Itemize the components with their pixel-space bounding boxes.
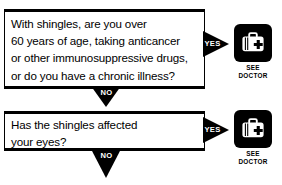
medical-bag-icon	[234, 110, 272, 148]
yes-arrow-1[interactable]: YES	[203, 31, 229, 58]
no-arrow-2-label: NO	[91, 152, 122, 160]
yes-arrow-2[interactable]: YES	[203, 117, 229, 144]
question-box-2: Has the shingles affected your eyes?	[4, 111, 205, 151]
outcome-2-label: SEE DOCTOR	[229, 150, 277, 165]
question-2-text: Has the shingles affected your eyes?	[11, 116, 200, 150]
flowchart-diagram: With shingles, are you over 60 years of …	[0, 0, 282, 185]
question-box-1: With shingles, are you over 60 years of …	[4, 9, 205, 89]
no-arrow-1-label: NO	[91, 89, 122, 97]
outcome-see-doctor-1[interactable]: SEE DOCTOR	[229, 24, 277, 79]
medical-bag-icon	[234, 24, 272, 62]
yes-arrow-1-label: YES	[204, 40, 221, 48]
question-1-text: With shingles, are you over 60 years of …	[11, 15, 200, 84]
yes-arrow-2-label: YES	[204, 126, 221, 134]
no-arrow-2[interactable]: NO	[91, 149, 122, 178]
outcome-see-doctor-2[interactable]: SEE DOCTOR	[229, 110, 277, 165]
no-arrow-1[interactable]: NO	[91, 86, 122, 107]
outcome-1-label: SEE DOCTOR	[229, 64, 277, 79]
